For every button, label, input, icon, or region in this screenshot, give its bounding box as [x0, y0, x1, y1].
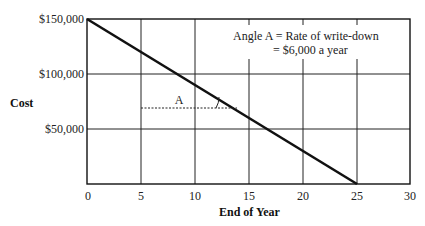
y-axis-label: Cost: [10, 96, 33, 110]
x-tick-15: 15: [243, 189, 255, 203]
x-tick-20: 20: [297, 189, 309, 203]
x-axis-label: End of Year: [219, 205, 281, 219]
y-tick-50000: $50,000: [45, 122, 84, 136]
x-tick-25: 25: [351, 189, 363, 203]
x-tick-30: 30: [404, 189, 416, 203]
annotation-line-1: Angle A = Rate of write-down: [233, 29, 379, 43]
depreciation-chart: $150,000 $100,000 $50,000 0 5 10 15 20 2…: [0, 0, 425, 226]
x-tick-10: 10: [189, 189, 201, 203]
y-tick-150000: $150,000: [39, 12, 84, 26]
annotation-line-2: = $6,000 a year: [273, 43, 348, 57]
x-tick-0: 0: [85, 189, 91, 203]
x-tick-5: 5: [138, 189, 144, 203]
angle-label: A: [175, 93, 184, 107]
y-tick-100000: $100,000: [39, 67, 84, 81]
